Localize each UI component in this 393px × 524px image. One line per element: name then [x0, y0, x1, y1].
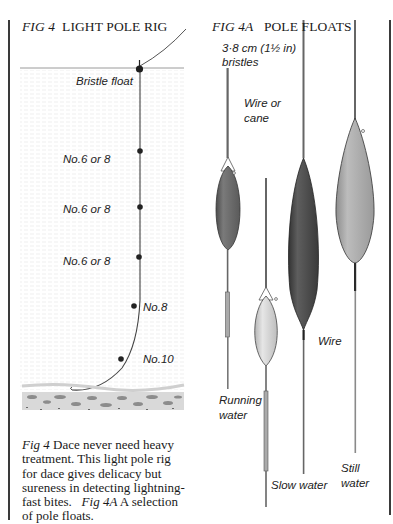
bristle-float-label: Bristle float	[76, 74, 133, 88]
running-water-label-line1: Running	[219, 393, 262, 407]
fig4-title-text: LIGHT POLE RIG	[62, 19, 167, 34]
fig4-title: FIG 4 LIGHT POLE RIG	[22, 19, 167, 35]
shot-label-4: No.8	[143, 300, 167, 314]
bristles-label-line1: 3·8 cm (1½ in)	[222, 41, 296, 55]
bristles-label-line2: bristles	[222, 55, 258, 69]
shot-label-5: No.10	[143, 352, 174, 366]
fig4a-number: FIG 4A	[212, 19, 253, 34]
still-water-label-line1: Still	[341, 461, 360, 475]
fig4-number: FIG 4	[22, 19, 55, 34]
fig4a-title-text: POLE FLOATS	[264, 19, 352, 34]
running-water-label-line2: water	[219, 408, 247, 422]
shot-label-2: No.6 or 8	[63, 202, 110, 216]
shot-label-1: No.6 or 8	[63, 152, 110, 166]
slow-water-label: Slow water	[271, 478, 327, 492]
still-water-float	[336, 20, 374, 453]
wire-or-cane-label-line2: cane	[244, 111, 269, 125]
caption-fig4a-ref: Fig 4A	[82, 494, 118, 509]
figure-caption: Fig 4 Dace never need heavy treatment. T…	[22, 438, 187, 524]
slow-water-float	[255, 178, 278, 507]
caption-fig4-ref: Fig 4	[22, 437, 50, 452]
running-water-float	[216, 68, 240, 389]
fig4a-title: FIG 4A POLE FLOATS	[212, 19, 352, 35]
shot-label-3: No.6 or 8	[63, 254, 110, 268]
wire-label: Wire	[318, 334, 342, 348]
wire-or-cane-label-line1: Wire or	[244, 96, 281, 110]
wire-float	[289, 20, 319, 474]
still-water-label-line2: water	[341, 476, 369, 490]
